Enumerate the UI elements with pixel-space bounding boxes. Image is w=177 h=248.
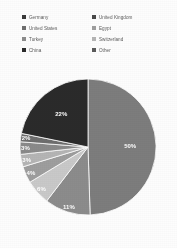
- legend-item-egypt[interactable]: Egypt: [92, 23, 162, 33]
- legend-item-label: Other: [99, 48, 111, 53]
- pie-slice-label: 2%: [22, 135, 31, 141]
- legend-item-united-kingdom[interactable]: United Kingdom: [92, 12, 162, 22]
- pie-slice-label: 11%: [63, 204, 75, 210]
- pie-slice[interactable]: [88, 79, 156, 215]
- pie-slice-label: 6%: [37, 186, 46, 192]
- legend-item-label: China: [29, 48, 41, 53]
- square-swatch-icon: [92, 26, 96, 30]
- legend-item-label: Germany: [29, 15, 48, 20]
- legend-item-label: United States: [29, 26, 57, 31]
- legend-item-china[interactable]: China: [22, 45, 92, 55]
- legend-item-label: United Kingdom: [99, 15, 132, 20]
- pie-slice-label: 3%: [22, 157, 31, 163]
- square-swatch-icon: [22, 37, 26, 41]
- legend-column-left: Germany United States Turkey China: [22, 12, 92, 56]
- square-swatch-icon: [92, 15, 96, 19]
- legend-item-label: Turkey: [29, 37, 43, 42]
- square-swatch-icon: [22, 48, 26, 52]
- chart-legend: Germany United States Turkey China Unite…: [22, 12, 162, 56]
- legend-item-turkey[interactable]: Turkey: [22, 34, 92, 44]
- legend-item-germany[interactable]: Germany: [22, 12, 92, 22]
- pie-slice-label: 3%: [21, 145, 30, 151]
- square-swatch-icon: [92, 37, 96, 41]
- legend-item-label: Switzerland: [99, 37, 123, 42]
- pie-chart-figure: Germany United States Turkey China Unite…: [0, 0, 177, 248]
- legend-item-label: Egypt: [99, 26, 111, 31]
- square-swatch-icon: [22, 15, 26, 19]
- pie-slice-label: 50%: [124, 143, 137, 149]
- legend-item-united-states[interactable]: United States: [22, 23, 92, 33]
- pie-slice-label: 22%: [55, 111, 68, 117]
- legend-item-switzerland[interactable]: Switzerland: [92, 34, 162, 44]
- square-swatch-icon: [22, 26, 26, 30]
- pie-chart-svg: 50%11%6%4%3%3%2%22%: [19, 57, 159, 237]
- pie-chart-plot-area: 50%11%6%4%3%3%2%22%: [19, 57, 159, 237]
- square-swatch-icon: [92, 48, 96, 52]
- pie-slice-label: 4%: [27, 170, 36, 176]
- legend-column-right: United Kingdom Egypt Switzerland Other: [92, 12, 162, 56]
- legend-item-other[interactable]: Other: [92, 45, 162, 55]
